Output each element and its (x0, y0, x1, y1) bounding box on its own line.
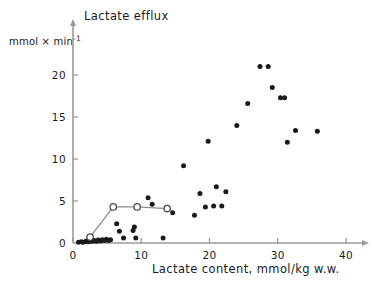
scatter-point (258, 64, 263, 69)
mean-response-curve-line (90, 207, 167, 237)
axes-group (70, 19, 369, 246)
scatter-point (270, 85, 275, 90)
scatter-point (161, 235, 166, 240)
scatter-point (197, 191, 202, 196)
x-axis-arrowhead (362, 240, 369, 246)
scatter-point (206, 139, 211, 144)
scatter-point (315, 129, 320, 134)
scatter-point (223, 189, 228, 194)
y-axis-arrowhead (70, 19, 76, 26)
scatter-point (133, 235, 138, 240)
scatter-point (146, 195, 151, 200)
scatter-point (214, 184, 219, 189)
lactate-efflux-figure: Lactate efflux mmol × min-1 Lactate cont… (0, 0, 372, 288)
scatter-point (266, 64, 271, 69)
scatter-point (114, 221, 119, 226)
mean-response-markers-group (87, 204, 171, 241)
scatter-point (203, 204, 208, 209)
scatter-point (121, 235, 126, 240)
scatter-point (108, 237, 113, 242)
scatter-point (117, 229, 122, 234)
scatter-point (211, 204, 216, 209)
scatter-point (150, 202, 155, 207)
mean-response-marker (134, 204, 140, 210)
scatter-point (181, 163, 186, 168)
plot-area (0, 0, 372, 288)
mean-response-polyline (90, 207, 167, 237)
scatter-point (285, 140, 290, 145)
scatter-point (282, 95, 287, 100)
scatter-point (170, 210, 175, 215)
scatter-point (132, 225, 137, 230)
scatter-point (234, 123, 239, 128)
scatter-point (192, 213, 197, 218)
mean-response-marker (110, 204, 116, 210)
scatter-points-group (76, 64, 320, 245)
scatter-point (219, 204, 224, 209)
mean-response-marker (87, 234, 93, 240)
mean-response-marker (164, 205, 170, 211)
scatter-point (293, 128, 298, 133)
scatter-point (245, 101, 250, 106)
